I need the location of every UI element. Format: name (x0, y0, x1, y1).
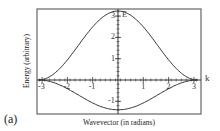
y-tick-label: 2 (111, 32, 115, 41)
x-tick-label: 1 (141, 82, 145, 91)
y-tick-label: -1 (108, 96, 115, 105)
band-structure-chart (0, 0, 220, 131)
k-axis-label: k (205, 73, 210, 83)
x-tick-label: -1 (89, 82, 96, 91)
x-axis-title: Wavevector (in radians) (0, 118, 220, 127)
e-axis-label: E (122, 10, 127, 19)
x-tick-label: 3 (192, 82, 196, 91)
y-tick-label: 3 (111, 11, 115, 20)
y-tick-label: 1 (111, 54, 115, 63)
x-tick-label: -2 (63, 82, 70, 91)
x-tick-label: 2 (167, 82, 171, 91)
x-tick-label: -3 (38, 82, 45, 91)
axes (37, 9, 201, 114)
y-axis-title: Energy (arbitrary) (22, 34, 31, 88)
